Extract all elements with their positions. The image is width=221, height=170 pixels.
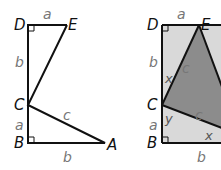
side-ca2-label: c [195,107,203,123]
point-e-label: E [68,16,78,34]
side-ce-label: c [182,60,190,76]
point-b-label: B [14,134,24,152]
side-cb2-label: a [149,117,158,133]
angle-y-label: y [164,111,173,126]
point-c-label: C [14,96,25,114]
side-dc-label: b [15,54,24,70]
side-dc2-label: b [149,54,158,70]
angle-x-bottom-label: x [204,128,213,143]
left-figure: D E C B A a b a b c [14,6,117,165]
side-cb-label: a [15,117,24,133]
side-bottom2-label: b [197,149,206,165]
right-figure: D E C B a b a b c c x y x [147,6,221,165]
side-de-label: a [43,6,52,22]
side-ba-label: b [63,149,72,165]
side-de2-label: a [177,6,186,22]
left-figure-outline [28,25,105,143]
point-d-label: D [14,16,26,34]
point-a-label: A [106,136,117,154]
diagram-canvas: D E C B A a b a b c D E C B a b a b c c … [0,0,221,170]
point-c2-label: C [147,96,158,114]
point-d2-label: D [147,16,159,34]
side-ca-label: c [63,107,71,123]
point-e2-label: E [201,16,211,34]
angle-x-top-label: x [164,71,173,86]
point-b2-label: B [147,134,157,152]
